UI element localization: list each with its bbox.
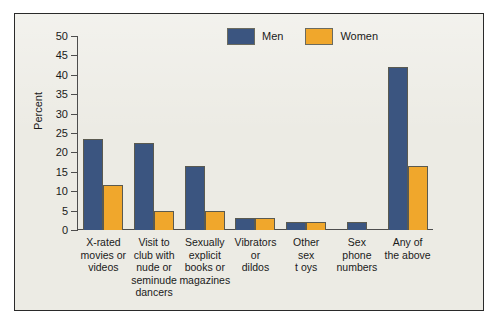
y-tick-label: 30 <box>56 108 68 120</box>
y-tick-mark <box>71 114 78 115</box>
x-axis-label-line: the above <box>376 249 439 262</box>
y-axis-title: Percent <box>32 92 44 130</box>
bar-men <box>83 139 103 230</box>
bar-women <box>154 211 174 230</box>
bar-group <box>230 36 281 230</box>
bar-men <box>134 143 154 230</box>
bar-group <box>179 36 230 230</box>
bar-group <box>382 36 433 230</box>
bar-men <box>235 218 255 230</box>
bar-women <box>255 218 275 230</box>
bar-men <box>347 222 367 230</box>
x-axis-labels: X-ratedmovies orvideosVisit toclub withn… <box>78 236 433 306</box>
y-tick-label: 10 <box>56 185 68 197</box>
bar-group <box>129 36 180 230</box>
chart-figure: MenWomen Percent 05101520253035404550 X-… <box>14 13 484 311</box>
bar-women <box>306 222 326 230</box>
bar-group <box>281 36 332 230</box>
y-tick-label: 50 <box>56 30 68 42</box>
bar-men <box>286 222 306 230</box>
y-tick-mark <box>71 55 78 56</box>
y-tick-mark <box>71 172 78 173</box>
bar-group <box>332 36 383 230</box>
bar-women <box>205 211 225 230</box>
y-tick-mark <box>71 36 78 37</box>
bar-men <box>388 67 408 230</box>
y-tick-mark <box>71 152 78 153</box>
y-tick-label: 15 <box>56 166 68 178</box>
x-axis-label: Any ofthe above <box>376 236 439 261</box>
bar-group <box>78 36 129 230</box>
y-tick-mark <box>71 75 78 76</box>
bar-series-container <box>78 36 433 230</box>
plot-area: 05101520253035404550 <box>77 36 432 230</box>
y-tick-mark <box>71 94 78 95</box>
x-axis-label-line: Any of <box>376 236 439 249</box>
y-tick-label: 45 <box>56 49 68 61</box>
y-tick-label: 40 <box>56 69 68 81</box>
y-tick-mark <box>71 230 78 231</box>
x-axis-label-line: numbers <box>326 261 389 274</box>
x-axis-label-line: magazines <box>173 274 236 287</box>
y-tick-label: 5 <box>62 205 68 217</box>
chart-canvas: MenWomen Percent 05101520253035404550 X-… <box>15 14 483 310</box>
y-tick-mark <box>71 133 78 134</box>
y-tick-mark <box>71 191 78 192</box>
y-tick-label: 35 <box>56 88 68 100</box>
y-tick-label: 20 <box>56 146 68 158</box>
bar-men <box>185 166 205 230</box>
y-tick-mark <box>71 211 78 212</box>
y-tick-label: 25 <box>56 127 68 139</box>
bar-women <box>103 185 123 230</box>
bar-women <box>408 166 428 230</box>
x-axis-label-line: dancers <box>123 286 186 299</box>
y-tick-label: 0 <box>62 224 68 236</box>
